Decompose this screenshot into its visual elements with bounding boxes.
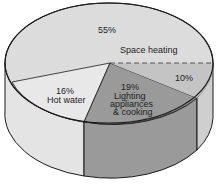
hot-water-label: Hot water — [47, 95, 86, 105]
space-heating-pct: 55% — [98, 25, 116, 35]
space-heating-label: Space heating — [120, 45, 178, 55]
pie-chart: 55% Space heating 16% Hot water 19% Ligh… — [0, 0, 218, 186]
other-pct: 10% — [175, 73, 193, 83]
lighting-label-3: & cooking — [113, 107, 153, 117]
